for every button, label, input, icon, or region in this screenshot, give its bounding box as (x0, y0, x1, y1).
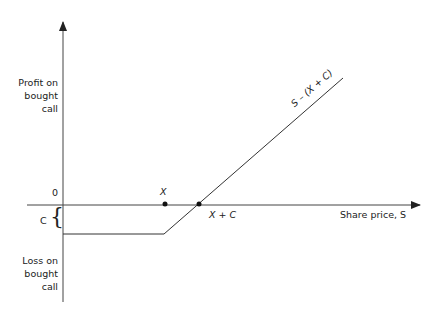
upper-label-line-3: call (0, 102, 58, 115)
zero-label: 0 (52, 186, 58, 199)
lower-label-line-1: Loss on (0, 254, 58, 267)
strike-label: X (160, 185, 167, 198)
breakeven-point (197, 202, 202, 207)
breakeven-label: X + C (209, 208, 236, 221)
upper-label-line-2: bought (0, 89, 58, 102)
premium-brace: { (50, 204, 64, 230)
upper-label-line-1: Profit on (0, 76, 58, 89)
x-axis-label: Share price, S (340, 208, 406, 221)
strike-point (163, 202, 168, 207)
lower-label-line-2: bought (0, 267, 58, 280)
lower-label-line-3: call (0, 280, 58, 293)
y-axis-upper-label: Profit on bought call (0, 76, 58, 115)
y-axis-lower-label: Loss on bought call (0, 254, 58, 293)
premium-label: C (40, 214, 47, 227)
payoff-diagram (0, 0, 441, 318)
